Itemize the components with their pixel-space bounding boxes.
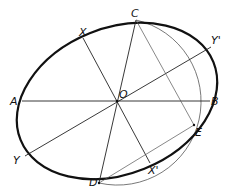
label-E: E [195,126,202,139]
label-Y-prime: Y' [211,34,221,47]
point-D [98,182,100,184]
label-B: B [211,95,219,108]
label-X-prime: X' [147,164,159,177]
center-point-O [116,100,119,103]
label-C: C [131,7,139,20]
label-X: X [78,26,87,39]
label-Y: Y [13,154,21,167]
ellipse-diagram: A B C D E O X X' Y Y' [0,0,233,195]
label-D: D [89,176,97,189]
label-O: O [119,88,128,101]
chord-CE [136,20,194,125]
ellipse [0,0,233,195]
label-A: A [9,95,18,108]
chord-DE [99,125,194,183]
